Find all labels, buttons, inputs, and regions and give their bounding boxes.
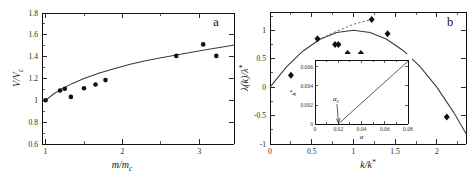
panel-b-x-axis-title: k/k* (360, 159, 376, 171)
panel-a-xtick-0: 1 (44, 147, 48, 156)
inset-y-axis-title: k* (290, 90, 299, 96)
panel-a-point (103, 78, 108, 83)
panel-a-y-ticks (42, 13, 47, 144)
panel-b-ytick-3: 0.5 (257, 54, 267, 63)
panel-b-xtick-4: 2 (435, 147, 439, 156)
panel-a-point (82, 86, 87, 91)
panel-b-point (444, 114, 450, 121)
panel-a-point (93, 82, 98, 87)
inset-xtick-4: 0.08 (403, 126, 413, 132)
panel-a-ytick-1: 0.8 (29, 118, 39, 127)
two-panel-scientific-figure: 0.6 0.8 1 1.2 1.4 1.6 1.8 (0, 0, 472, 176)
panel-b-xtick-2: 1 (352, 147, 356, 156)
panel-a-point (214, 54, 219, 59)
inset-xtick-1: 0.02 (333, 126, 343, 132)
panel-b-letter: b (447, 15, 453, 29)
panel-a-xtick-2: 3 (198, 147, 202, 156)
panel-a: 0.6 0.8 1 1.2 1.4 1.6 1.8 (11, 9, 234, 173)
inset-ytick-3: 0.006 (300, 64, 313, 70)
panel-b-point (288, 72, 294, 79)
panel-a-y-ticklabels: 0.6 0.8 1 1.2 1.4 1.6 1.8 (29, 9, 39, 149)
panel-a-x-ticklabels: 1 2 3 (44, 147, 202, 156)
panel-a-xtick-1: 2 (121, 147, 125, 156)
panel-b-y-axis-title: λ(k)/λ* (239, 65, 252, 93)
panel-a-ytick-6: 1.8 (29, 9, 39, 18)
panel-a-ytick-4: 1.4 (29, 52, 39, 61)
panel-a-point (69, 95, 74, 100)
panel-b-ytick-2: 0 (262, 83, 266, 92)
panel-b-point (385, 30, 391, 37)
inset-ytick-1: 0.002 (300, 102, 313, 108)
panel-a-point (58, 88, 63, 93)
panel-a-model-curve (46, 45, 235, 100)
panel-b-xtick-1: 0.5 (307, 147, 317, 156)
panel-b-x-ticklabels: 0 0.5 1 1.5 2 (268, 147, 439, 156)
panel-b-ytick-1: -0.5 (254, 111, 266, 120)
panel-a-ytick-2: 1 (34, 96, 38, 105)
panel-a-point (174, 54, 179, 59)
panel-a-ytick-0: 0.6 (29, 140, 39, 149)
panel-a-ytick-5: 1.6 (29, 30, 39, 39)
inset-xtick-0: 0 (314, 126, 317, 132)
panel-a-y-axis-title: V/Vc (11, 68, 25, 87)
panel-b-y-ticklabels: -1 -0.5 0 0.5 1 (254, 26, 266, 149)
panel-b-ytick-0: -1 (260, 140, 267, 149)
panel-b-point (315, 35, 321, 42)
inset-xtick-2: 0.04 (357, 126, 367, 132)
panel-a-point (201, 42, 206, 47)
panel-b-point (369, 16, 375, 23)
inset-plot: 0 0.002 0.004 0.006 0 0.02 (290, 54, 414, 141)
inset-ytick-2: 0.004 (300, 83, 313, 89)
figure-container: 0.6 0.8 1 1.2 1.4 1.6 1.8 (0, 0, 472, 176)
panel-b-point (335, 41, 341, 48)
panel-b-xtick-0: 0 (268, 147, 272, 156)
panel-a-point (43, 98, 48, 103)
panel-a-data-points (43, 42, 218, 102)
panel-a-point (63, 87, 68, 92)
panel-a-x-ticks (46, 13, 235, 144)
panel-b-ytick-4: 1 (262, 26, 266, 35)
panel-a-letter: a (213, 15, 219, 29)
inset-x-axis-title: α (360, 133, 364, 141)
panel-b-xtick-3: 1.5 (390, 147, 400, 156)
inset-xtick-3: 0.06 (380, 126, 390, 132)
panel-a-x-axis-title: m/mc (112, 159, 133, 173)
panel-a-ytick-3: 1.2 (29, 74, 39, 83)
